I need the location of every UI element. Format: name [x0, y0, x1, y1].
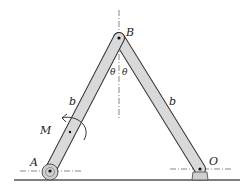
label-o: O — [209, 155, 218, 168]
bar-ab-midpoint — [69, 131, 71, 133]
bar-ab — [50, 38, 119, 171]
label-b-length-left: b — [69, 95, 76, 108]
label-theta-right: θ — [122, 67, 128, 77]
pin-b — [117, 36, 120, 39]
label-b-length-right: b — [169, 95, 176, 108]
bar-ob — [119, 38, 200, 169]
mechanism-diagram: B A O b b M θ θ — [0, 0, 252, 196]
pin-o — [198, 167, 201, 170]
label-moment: M — [39, 124, 52, 137]
pin-support-o — [192, 172, 208, 180]
label-a: A — [29, 156, 38, 169]
label-theta-left: θ — [110, 67, 116, 77]
label-b: B — [125, 26, 134, 39]
pin-a — [48, 169, 51, 172]
